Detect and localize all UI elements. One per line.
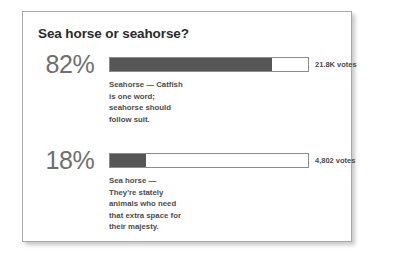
option-description-line: seahorse should	[109, 102, 269, 114]
option-description-line: Sea horse —	[109, 175, 269, 187]
option-bar-track	[109, 153, 309, 168]
option-description-line: Seahorse — Catfish	[109, 79, 269, 91]
option-description-line: They're stately	[109, 187, 269, 199]
option-vote-count: 21.8K votes	[315, 60, 357, 69]
option-description-line: that extra space for	[109, 210, 269, 222]
option-bar-fill	[110, 154, 146, 167]
option-description-line: follow suit.	[109, 114, 269, 126]
option-description-line: is one word;	[109, 91, 269, 103]
option-description: Sea horse — They're stately animals who …	[109, 175, 269, 233]
option-description-line: animals who need	[109, 198, 269, 210]
option-description: Seahorse — Catfish is one word; seahorse…	[109, 79, 269, 125]
option-bar-fill	[110, 58, 272, 71]
page-title: Sea horse or seahorse?	[38, 26, 189, 41]
option-percent-label: 18%	[31, 146, 109, 175]
option-description-line: their majesty.	[109, 221, 269, 233]
option-bar-track	[109, 57, 309, 72]
option-percent-label: 82%	[31, 50, 109, 79]
poll-card: Sea horse or seahorse? 82% 21.8K votes S…	[22, 11, 352, 242]
option-vote-count: 4,802 votes	[315, 156, 355, 165]
